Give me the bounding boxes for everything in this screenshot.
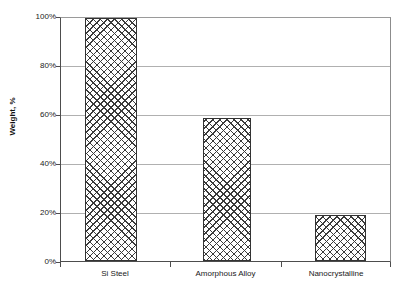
x-axis-category-label-amorphous-alloy: Amorphous Alloy <box>170 270 281 278</box>
plot-area <box>60 17 391 262</box>
bar-amorphous-alloy <box>203 118 251 261</box>
x-axis-tick-mark-2 <box>281 262 282 267</box>
bar-chart: Weight, % 100% 80% 60% 40% 20% 0% Si Ste… <box>0 0 413 291</box>
x-axis-tick-mark-start <box>60 262 61 267</box>
bar-si-steel <box>85 18 137 261</box>
x-axis-category-label-nanocrystalline: Nanocrystalline <box>281 270 391 278</box>
y-axis-tick-label-80: 80% <box>0 62 56 70</box>
y-axis-tick-label-40: 40% <box>0 160 56 168</box>
y-axis-tick-label-20: 20% <box>0 209 56 217</box>
y-axis-tick-label-100: 100% <box>0 13 56 21</box>
y-axis-tick-label-60: 60% <box>0 111 56 119</box>
y-axis-tick-label-0: 0% <box>0 258 56 266</box>
x-axis-tick-mark-1 <box>170 262 171 267</box>
bar-nanocrystalline <box>315 215 366 261</box>
x-axis-category-label-si-steel: Si Steel <box>60 270 170 278</box>
x-axis-tick-mark-end <box>390 262 391 267</box>
